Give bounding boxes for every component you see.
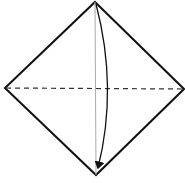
origami-diagram — [0, 0, 185, 183]
paper-diamond — [5, 2, 184, 175]
